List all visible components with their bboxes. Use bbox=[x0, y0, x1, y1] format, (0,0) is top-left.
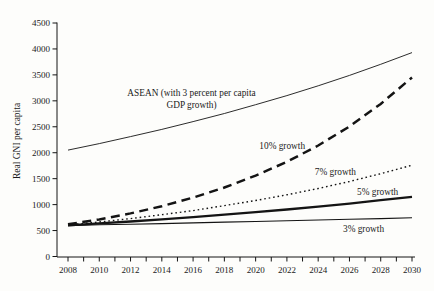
annotation-growth-label: 7% growth bbox=[315, 167, 356, 177]
x-tick-label: 2012 bbox=[122, 265, 140, 275]
x-tick-label: 2016 bbox=[184, 265, 203, 275]
x-tick-label: 2008 bbox=[59, 265, 78, 275]
y-tick-label: 0 bbox=[46, 252, 51, 262]
x-tick-label: 2020 bbox=[247, 265, 266, 275]
y-tick-label: 3500 bbox=[32, 70, 51, 80]
y-tick-label: 2000 bbox=[32, 148, 51, 158]
y-axis: 050010001500200025003000350040004500 bbox=[32, 18, 57, 262]
x-tick-label: 2010 bbox=[90, 265, 109, 275]
x-tick-label: 2022 bbox=[278, 265, 296, 275]
annotation-growth-label: 5% growth bbox=[357, 187, 398, 197]
line-chart: Real GNI per capita 05001000150020002500… bbox=[0, 0, 434, 291]
series-line-asean bbox=[68, 53, 412, 151]
x-tick-label: 2014 bbox=[153, 265, 172, 275]
y-tick-label: 1000 bbox=[32, 200, 51, 210]
y-axis-label: Real GNI per capita bbox=[12, 102, 22, 179]
x-axis: 2008201020122014201620182020202220242026… bbox=[59, 257, 422, 275]
x-tick-label: 2028 bbox=[372, 265, 391, 275]
y-tick-label: 1500 bbox=[32, 174, 51, 184]
annotation-growth-label: 3% growth bbox=[343, 224, 384, 234]
annotation-growth-label: 10% growth bbox=[259, 141, 305, 151]
x-tick-label: 2018 bbox=[215, 265, 234, 275]
chart-figure: Real GNI per capita 05001000150020002500… bbox=[0, 0, 434, 291]
x-tick-label: 2024 bbox=[309, 265, 328, 275]
x-tick-label: 2026 bbox=[340, 265, 359, 275]
y-tick-label: 3000 bbox=[32, 96, 51, 106]
x-tick-label: 2030 bbox=[403, 265, 422, 275]
series-line-5pct bbox=[68, 197, 412, 226]
y-tick-label: 500 bbox=[37, 226, 51, 236]
y-tick-label: 2500 bbox=[32, 122, 51, 132]
annotation-asean-label: ASEAN (with 3 percent per capitaGDP grow… bbox=[127, 88, 255, 111]
y-tick-label: 4000 bbox=[32, 44, 51, 54]
y-tick-label: 4500 bbox=[32, 18, 51, 28]
